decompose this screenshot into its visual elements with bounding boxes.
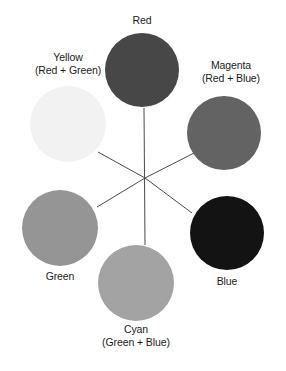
color-disc-cyan	[98, 245, 174, 321]
spoke-magenta	[145, 152, 196, 178]
color-label-name-green: Green	[46, 270, 75, 282]
color-label-name-yellow: Yellow	[53, 51, 82, 63]
color-label-green: Green	[0, 270, 203, 283]
color-label-name-magenta: Magenta	[211, 59, 251, 71]
color-disc-green	[22, 190, 98, 266]
color-label-name-red: Red	[133, 14, 152, 26]
color-label-name-blue: Blue	[217, 275, 238, 287]
color-disc-blue	[190, 196, 264, 270]
spoke-blue	[145, 178, 192, 213]
color-label-red: Red	[0, 14, 285, 27]
spoke-red	[144, 108, 145, 245]
color-label-formula-cyan: (Green + Blue)	[0, 336, 279, 349]
color-label-formula-yellow: (Red + Green)	[0, 64, 211, 77]
color-label-cyan: Cyan(Green + Blue)	[0, 323, 279, 348]
color-disc-magenta	[187, 96, 261, 170]
color-label-name-cyan: Cyan	[124, 323, 148, 335]
color-label-yellow: Yellow(Red + Green)	[0, 51, 211, 76]
color-wheel-figure: RedMagenta(Red + Blue)BlueCyan(Green + B…	[0, 0, 286, 371]
spoke-yellow	[98, 152, 145, 178]
color-disc-yellow	[30, 86, 106, 162]
spoke-green	[97, 178, 145, 207]
